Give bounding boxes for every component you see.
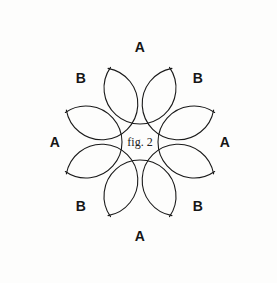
lobe-label-bottom-right: B [193,199,203,213]
figure-caption: fig. 2 [127,136,152,148]
lobe-label-left: A [50,135,60,149]
lobe-arc-bottom [104,160,176,217]
lobe-label-right: A [220,135,230,149]
lobe-label-top-left: B [76,71,86,85]
lobe-arc-top [104,67,176,124]
lobe-label-bottom: A [135,229,145,243]
lobe-label-top-right: B [193,71,203,85]
lobe-arc-left [65,106,122,178]
lobe-label-bottom-left: B [76,199,86,213]
lobe-label-top: A [135,40,145,54]
lobe-arc-right [158,106,215,178]
figure-canvas: ABABABAB fig. 2 [0,0,277,283]
